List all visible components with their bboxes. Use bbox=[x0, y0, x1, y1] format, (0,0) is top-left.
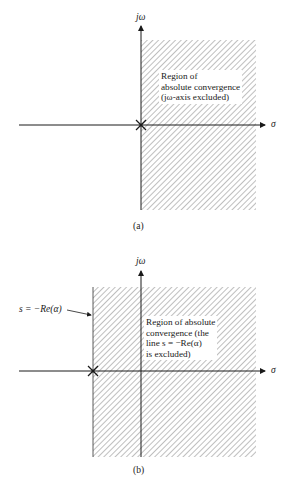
roc-hatched-region-b bbox=[93, 287, 256, 457]
roc-text-line: Region of absolute bbox=[146, 317, 215, 328]
roc-description-b: Region of absolute convergence (the line… bbox=[144, 316, 217, 360]
panel-a bbox=[19, 26, 265, 210]
roc-text-line: Region of bbox=[161, 71, 240, 82]
roc-text-line: (jω-axis excluded) bbox=[161, 92, 240, 103]
panel-b bbox=[19, 271, 265, 457]
jomega-axis-label-b: jω bbox=[136, 256, 145, 267]
jomega-axis-label-a: jω bbox=[136, 12, 145, 23]
roc-text-line: absolute convergence bbox=[161, 82, 240, 93]
sigma-axis-label-b: σ bbox=[271, 365, 276, 376]
sigma-axis-label-a: σ bbox=[271, 119, 276, 130]
roc-text-line: is excluded) bbox=[146, 349, 215, 360]
diagram-canvas bbox=[0, 0, 288, 478]
roc-description-a: Region of absolute convergence (jω-axis … bbox=[159, 70, 242, 104]
roc-text-line: line s = −Re(α) bbox=[146, 338, 215, 349]
boundary-pointer-arrow bbox=[67, 310, 91, 315]
boundary-label: s = −Re(α) bbox=[19, 304, 62, 315]
roc-text-line: convergence (the bbox=[146, 328, 215, 339]
caption-a: (a) bbox=[133, 221, 144, 231]
caption-b: (b) bbox=[133, 465, 144, 475]
